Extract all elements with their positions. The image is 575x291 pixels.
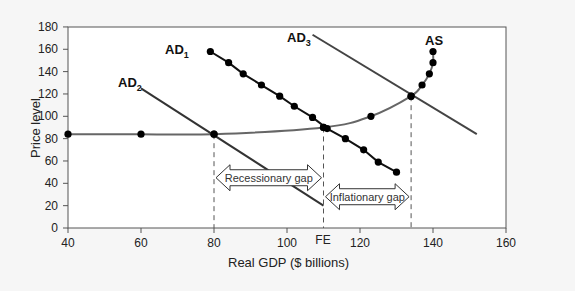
chart: 020406080100120140160180 406080100120140… — [0, 0, 575, 291]
svg-text:AS: AS — [425, 33, 443, 48]
as-label: AS — [425, 33, 443, 48]
svg-text:140: 140 — [38, 65, 58, 79]
svg-text:100: 100 — [277, 236, 297, 250]
plot-area — [68, 27, 506, 228]
svg-text:20: 20 — [45, 199, 59, 213]
svg-text:Inflationary gap: Inflationary gap — [330, 191, 405, 203]
svg-text:0: 0 — [51, 221, 58, 235]
svg-text:160: 160 — [38, 42, 58, 56]
svg-text:Recessionary gap: Recessionary gap — [225, 172, 313, 184]
svg-text:180: 180 — [38, 20, 58, 34]
svg-text:140: 140 — [423, 236, 443, 250]
svg-text:40: 40 — [61, 236, 75, 250]
svg-text:80: 80 — [45, 132, 59, 146]
svg-text:60: 60 — [134, 236, 148, 250]
svg-text:40: 40 — [45, 176, 59, 190]
y-axis-label: Price level — [28, 98, 43, 158]
svg-text:80: 80 — [207, 236, 221, 250]
svg-text:60: 60 — [45, 154, 59, 168]
fe-label: FE — [315, 233, 330, 247]
svg-text:120: 120 — [350, 236, 370, 250]
x-axis-label: Real GDP ($ billions) — [228, 255, 349, 270]
svg-text:160: 160 — [496, 236, 516, 250]
